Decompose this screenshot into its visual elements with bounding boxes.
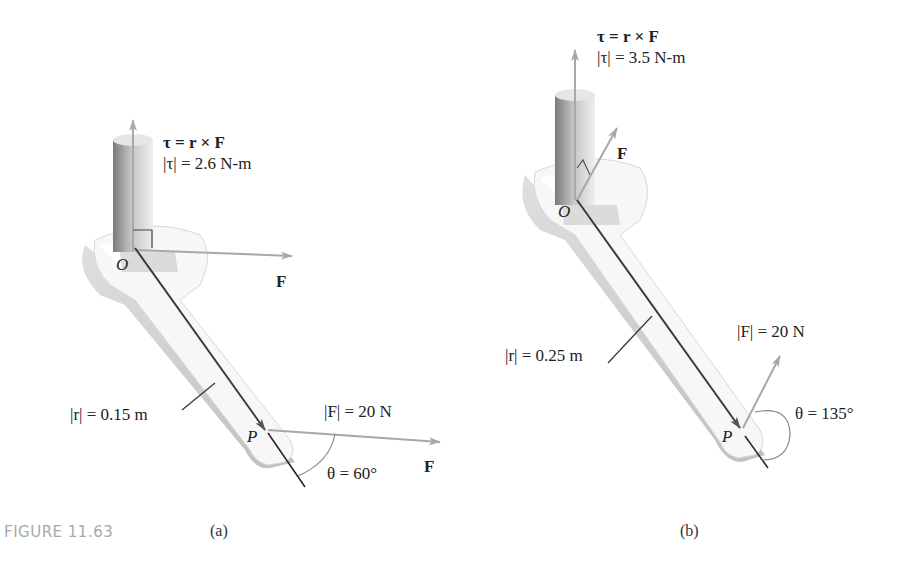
force-magnitude-b: |F| = 20 N: [737, 323, 805, 340]
diagram-canvas: [0, 0, 909, 568]
figure-caption: FIGURE 11.63: [4, 523, 113, 541]
r-magnitude-b: |r| = 0.25 m: [505, 347, 583, 364]
force-label-top-a: F: [276, 273, 286, 290]
torque-equation-b: τ = r × F: [597, 28, 659, 45]
r-vector-b: [577, 200, 740, 428]
torque-equation-a: τ = r × F: [163, 134, 225, 151]
force-label-bottom-a: F: [424, 458, 434, 475]
theta-label-a: θ = 60°: [327, 465, 377, 482]
force-magnitude-a: |F| = 20 N: [324, 403, 392, 420]
point-label-b: P: [722, 428, 732, 445]
panel-b-wrench: [522, 89, 765, 462]
panel-label-b: (b): [680, 522, 699, 540]
force-vector-at-p-a: [268, 430, 440, 442]
force-vector-at-p-b: [743, 356, 780, 428]
torque-magnitude-a: |τ| = 2.6 N-m: [163, 155, 251, 172]
origin-label-a: O: [116, 256, 128, 273]
torque-magnitude-b: |τ| = 3.5 N-m: [597, 49, 685, 66]
r-magnitude-a: |r| = 0.15 m: [70, 406, 148, 423]
theta-label-b: θ = 135°: [795, 405, 854, 422]
force-label-top-b: F: [617, 145, 627, 162]
point-label-a: P: [247, 428, 257, 445]
origin-label-b: O: [558, 203, 570, 220]
panel-label-a: (a): [210, 522, 228, 540]
